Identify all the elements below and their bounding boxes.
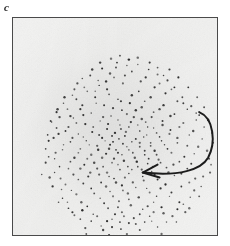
arrow-head-barb-upper: [143, 165, 158, 173]
figure-panel-c: c: [0, 0, 230, 246]
annotation-arrow-layer: [13, 18, 217, 235]
plot-frame: [12, 17, 218, 236]
panel-label: c: [4, 1, 9, 13]
curved-arrow-icon: [143, 112, 213, 177]
arrow-shaft: [144, 112, 213, 174]
